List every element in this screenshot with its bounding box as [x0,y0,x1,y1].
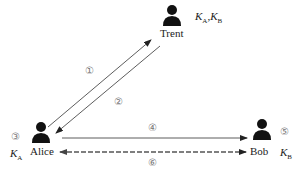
arrow-step-2 [56,46,160,133]
step-6-label: ⑥ [148,157,157,168]
step-3-label: ③ [11,131,20,142]
alice-key: KA [10,147,22,162]
bob-key: KB [280,146,292,161]
step-5-label: ⑤ [280,126,289,137]
step-2-label: ② [114,96,123,107]
step-4-label: ④ [148,122,157,133]
alice-label: Alice [30,145,54,157]
protocol-diagram: Trent KA,KB Alice ③ KA Bob ⑤ KB ① ② ④ ⑥ [0,0,298,171]
alice-person-icon [32,122,50,143]
step-1-label: ① [85,65,94,76]
trent-label: Trent [160,27,183,39]
trent-keys: KA,KB [195,10,222,25]
arrow-step-1 [48,40,151,127]
trent-person-icon [163,5,181,26]
bob-label: Bob [250,145,268,157]
bob-person-icon [253,119,271,140]
